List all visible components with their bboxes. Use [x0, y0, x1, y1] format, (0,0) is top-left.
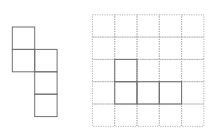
grid-cell: [159, 15, 181, 37]
figure-canvas: [0, 0, 210, 140]
grid-cell: [137, 104, 159, 126]
shape-square: [115, 59, 137, 81]
grid-cell: [137, 82, 159, 104]
grid-cell: [92, 59, 114, 81]
net-square: [35, 72, 57, 94]
grid-cell: [137, 15, 159, 37]
shape-square: [159, 82, 181, 104]
net-square: [35, 49, 57, 71]
grid-cell: [159, 37, 181, 59]
grid-cell: [159, 59, 181, 81]
grid-cell: [182, 82, 204, 104]
grid-cell: [115, 37, 137, 59]
grid-cell: [182, 59, 204, 81]
grid-shape: [115, 59, 182, 104]
grid-cell: [182, 15, 204, 37]
grid-cell: [115, 82, 137, 104]
grid-cell: [159, 104, 181, 126]
grid-cell: [137, 59, 159, 81]
grid-cell: [92, 37, 114, 59]
net-square: [12, 49, 34, 71]
grid-cell: [182, 37, 204, 59]
figure-svg: [0, 0, 210, 140]
grid-cell: [182, 104, 204, 126]
net-square: [12, 27, 34, 49]
grid-cell: [159, 82, 181, 104]
grid-cell: [115, 15, 137, 37]
net-of-squares: [12, 27, 57, 117]
grid-cell: [92, 15, 114, 37]
grid-cell: [115, 59, 137, 81]
grid-cell: [92, 104, 114, 126]
shape-square: [115, 82, 137, 104]
dotted-grid: [92, 15, 204, 127]
grid-cell: [115, 104, 137, 126]
net-square: [35, 94, 57, 116]
grid-cell: [137, 37, 159, 59]
shape-square: [137, 82, 159, 104]
grid-cell: [92, 82, 114, 104]
